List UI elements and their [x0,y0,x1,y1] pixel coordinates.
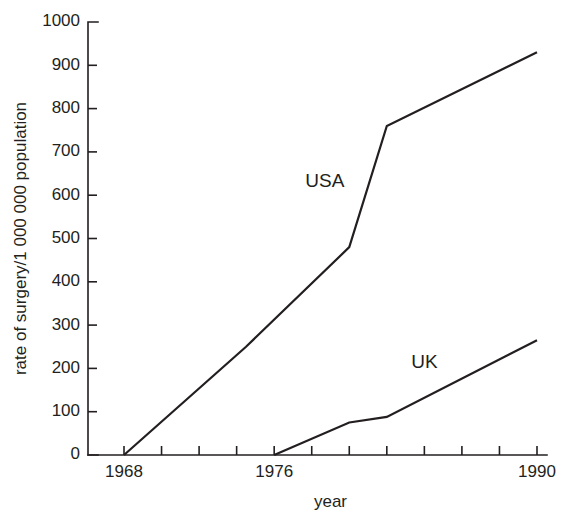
y-axis-tick-label: 600 [52,185,80,204]
y-axis-tick-label: 100 [52,401,80,420]
y-axis-tick-label: 500 [52,228,80,247]
series-line-uk [274,340,537,455]
y-axis-tick-label: 200 [52,358,80,377]
y-axis: 01002003004005006007008009001000 rate of… [11,11,98,463]
x-axis-tick-label: 1990 [518,462,556,481]
y-axis-tick-labels: 01002003004005006007008009001000 [42,11,80,463]
y-axis-tick-label: 700 [52,141,80,160]
series-line-usa [124,52,537,455]
y-axis-tick-label: 0 [71,444,80,463]
y-axis-title: rate of surgery/1 000 000 population [11,102,30,375]
x-axis: 196819761990 year [88,446,556,511]
y-axis-tick-label: 900 [52,55,80,74]
x-axis-ticks [124,446,537,455]
y-axis-ticks [88,65,97,411]
series-label-usa: USA [305,170,344,191]
y-axis-tick-label: 1000 [42,11,80,30]
y-axis-tick-label: 300 [52,315,80,334]
x-axis-tick-label: 1976 [255,462,293,481]
x-axis-title: year [314,492,347,511]
y-axis-tick-label: 800 [52,98,80,117]
x-axis-tick-labels: 196819761990 [105,462,556,481]
chart-container: 01002003004005006007008009001000 rate of… [0,0,576,514]
x-axis-tick-label: 1968 [105,462,143,481]
line-chart: 01002003004005006007008009001000 rate of… [0,0,576,514]
series-label-uk: UK [411,351,438,372]
y-axis-tick-label: 400 [52,271,80,290]
data-series-group [124,52,537,455]
